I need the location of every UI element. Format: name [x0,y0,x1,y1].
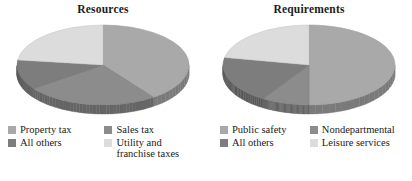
legend-item-label: All others [20,137,62,149]
chart-title-resources: Resources [0,3,206,15]
pie-slice-side [322,104,329,114]
pie-slice-side [251,94,253,104]
pie-slice-side [244,91,246,101]
pie-slice-side [261,98,263,108]
pie-slice-side [237,87,238,97]
legend-swatch-icon [104,126,112,134]
pie-slice-side [106,105,109,114]
pie-slice-side [35,90,37,100]
pie-svg-resources [14,19,192,115]
legend-item-property-tax[interactable]: Property tax [8,124,98,136]
pie-slice-side [93,105,96,114]
pie-slice-side [247,93,249,103]
pie-slice-side [123,103,126,112]
pie-slice-side [33,89,35,99]
legend-item-label: Utility and franchise taxes [116,137,179,160]
chart-title-requirements: Requirements [206,3,412,15]
pie-slice-side [110,105,113,114]
legend-item-utility-and-franchise-taxes[interactable]: Utility and franchise taxes [104,137,206,160]
pie-slice-side [38,91,40,101]
legend-item-all-others[interactable]: All others [220,137,304,149]
pie-slice-side [139,101,142,111]
legend-resources: Property tax Sales tax All others Utilit… [8,124,206,160]
pie-slice-side [90,105,93,114]
pie-slice-side [309,105,316,114]
legend-item-nondepartmental[interactable]: Nondepartmental [310,124,412,136]
legend-item-label: Sales tax [116,124,154,136]
pie-slice-side [145,99,148,109]
pie-slice-side [58,99,61,109]
pie-slice-side [126,103,129,112]
legend-swatch-icon [310,139,318,147]
pie-slice-side [47,95,50,105]
pie-slice-side [329,103,335,113]
pie-slice-side [255,96,257,106]
pie-slice-side [103,105,106,114]
legend-item-label: Public safety [232,124,287,136]
pie-slice-side [249,94,251,104]
pie-slice-side [61,100,64,110]
pie-chart-resources [14,19,192,115]
pie-slice-side [100,105,103,114]
legend-swatch-icon [220,126,228,134]
legend-item-all-others[interactable]: All others [8,137,98,149]
legend-item-label: All others [232,137,274,149]
legend-requirements: Public safety Nondepartmental All others… [220,124,412,148]
pie-slice-side [70,102,73,112]
pie-slice-side [342,101,348,111]
legend-swatch-icon [8,126,16,134]
pie-slice-side [142,100,145,110]
pie-slice-side [136,101,139,111]
pie-charts-figure: Resources Property tax Sales tax All oth… [0,0,412,181]
pie-slice-side [76,103,79,112]
legend-item-label: Leisure services [322,137,390,149]
pie-slice-side [45,94,48,104]
pie-slice-side [336,102,342,112]
legend-swatch-icon [310,126,318,134]
legend-item-leisure-services[interactable]: Leisure services [310,137,412,149]
pie-slice-side [50,96,53,106]
pie-slice-side [40,92,42,102]
legend-swatch-icon [220,139,228,147]
pie-slice-side [55,98,58,108]
pie-slice-side [151,97,154,107]
pie-slice-side [116,104,119,113]
pie-slice-side [83,104,86,113]
chart-panel-resources: Resources Property tax Sales tax All oth… [0,0,206,181]
pie-slice-side [120,104,123,113]
legend-item-label: Nondepartmental [322,124,395,136]
pie-slice-utility-and-franchise-taxes[interactable] [18,25,103,65]
pie-slice-side [240,89,242,99]
pie-slice-side [73,103,76,113]
legend-item-label: Property tax [20,124,72,136]
pie-slice-side [130,103,133,113]
pie-slice-side [64,101,67,111]
pie-chart-requirements [220,19,398,115]
pie-slice-side [80,103,83,112]
pie-slice-side [96,105,99,114]
legend-swatch-icon [8,139,16,147]
pie-slice-side [259,97,261,107]
legend-swatch-icon [104,139,112,147]
chart-panel-requirements: Requirements Public safety Nondepartment… [206,0,412,181]
pie-svg-requirements [220,19,398,115]
legend-item-sales-tax[interactable]: Sales tax [104,124,206,136]
pie-slice-side [67,101,70,111]
pie-slice-side [148,98,151,108]
pie-slice-side [113,105,116,114]
pie-slice-side [253,95,255,105]
pie-slice-side [52,97,55,107]
pie-slice-side [86,104,89,113]
pie-slice-side [257,97,259,107]
pie-slice-side [239,88,241,98]
pie-slice-side [42,93,44,103]
pie-slice-side [236,86,237,96]
legend-item-public-safety[interactable]: Public safety [220,124,304,136]
pie-slice-side [133,102,136,112]
pie-slice-side [242,90,244,100]
pie-slice-side [316,105,323,114]
pie-slice-side [245,92,247,102]
